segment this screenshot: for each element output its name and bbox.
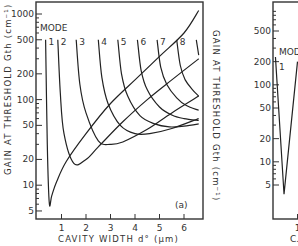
y-tick-label: 1000 [11, 9, 34, 19]
x-axis-title-a: CAVITY WIDTH d° (μm) [58, 234, 179, 244]
x-tick-label-b: 1 [295, 223, 298, 233]
y-axis-ticks-a: 51020501002005001000 [11, 9, 42, 216]
mode-curve-3 [76, 40, 199, 145]
mode-legend-title: MODE [40, 23, 68, 33]
y-tick-label-b: 10 [260, 157, 272, 167]
y-tick-label-b: 50 [260, 103, 272, 113]
mode-legend-title-b: MOD... [279, 47, 298, 57]
mode-number-7: 7 [160, 37, 166, 47]
y-tick-label: 200 [17, 69, 34, 79]
y-tick-label-b: 200 [254, 57, 271, 67]
x-tick-label: 1 [59, 223, 65, 233]
plot-frame-b [273, 2, 298, 219]
mode-labels-a: 12345678 [49, 37, 186, 47]
y-tick-label: 10 [23, 180, 35, 190]
x-axis-ticks-a: 123456 [59, 214, 188, 233]
y-tick-label-b: 100 [254, 80, 271, 90]
panel-a: 51020501002005001000 123456 12345678 MOD… [3, 2, 221, 244]
y-tick-label: 50 [23, 120, 35, 130]
y-tick-label: 5 [28, 206, 34, 216]
mode-number-4: 4 [101, 37, 107, 47]
mode-curve-2 [58, 40, 199, 165]
mode-number-2: 2 [61, 37, 67, 47]
x-tick-label: 2 [83, 223, 89, 233]
panel-b: 51020501002005001 MOD... 1 C... [254, 2, 298, 244]
mode-curve-4 [98, 40, 198, 135]
mode-number-3: 3 [79, 37, 85, 47]
mode-curve-b-1 [275, 57, 297, 194]
y-axis-title-a: GAIN AT THRESHOLD Gth (cm⁻¹) [3, 4, 13, 175]
y-tick-label-b: 500 [254, 26, 271, 36]
y-tick-label: 500 [17, 35, 34, 45]
mode-curve-9 [196, 40, 198, 55]
y-tick-label: 100 [17, 95, 34, 105]
chart-figure: 51020501002005001000 123456 12345678 MOD… [0, 0, 298, 246]
mode-number-5: 5 [121, 37, 127, 47]
x-tick-label: 5 [157, 223, 163, 233]
mode-number-1: 1 [49, 37, 55, 47]
x-tick-label: 6 [181, 223, 187, 233]
mode-label-b-1: 1 [279, 62, 285, 72]
y-axis-title-a-right: GAIN AT THRESHOLD Gth (cm⁻¹) [211, 30, 221, 201]
y-tick-label-b: 20 [260, 134, 272, 144]
mode-number-6: 6 [140, 37, 146, 47]
mode-curves-b [275, 57, 297, 194]
x-tick-label: 3 [108, 223, 114, 233]
y-tick-label-b: 5 [265, 180, 271, 190]
x-tick-label: 4 [132, 223, 138, 233]
panel-label: (a) [175, 200, 188, 210]
mode-curve-6 [137, 40, 198, 121]
mode-number-8: 8 [180, 37, 186, 47]
y-tick-label: 20 [23, 154, 35, 164]
x-axis-title-b: C... [290, 234, 298, 244]
